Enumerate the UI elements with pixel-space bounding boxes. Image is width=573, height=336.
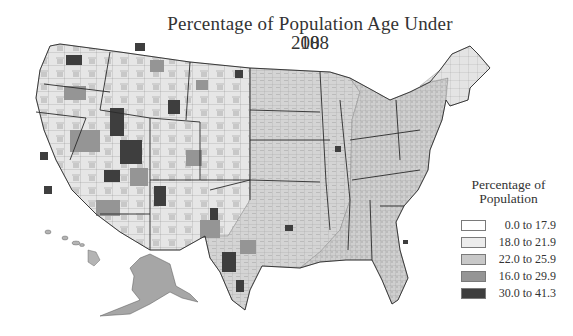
legend-item: 22.0 to 25.9 — [455, 251, 573, 268]
legend: Percentage of Population 0.0 to 17.9 18.… — [455, 178, 573, 302]
legend-title: Percentage of Population — [461, 178, 556, 206]
legend-label: 16.0 to 29.9 — [492, 269, 556, 284]
legend-swatch — [461, 254, 486, 265]
legend-item: 16.0 to 29.9 — [455, 268, 573, 285]
legend-label: 22.0 to 25.9 — [492, 252, 556, 267]
legend-item: 18.0 to 21.9 — [455, 234, 573, 251]
legend-item: 30.0 to 41.3 — [455, 285, 573, 302]
legend-item: 0.0 to 17.9 — [455, 217, 573, 234]
legend-swatch — [461, 220, 486, 231]
legend-label: 18.0 to 21.9 — [492, 235, 556, 250]
legend-swatch — [461, 288, 486, 299]
map-subtitle-year: 2008 — [160, 33, 460, 52]
legend-title-line1: Percentage of — [461, 178, 556, 192]
legend-swatch — [461, 237, 486, 248]
legend-label: 0.0 to 17.9 — [492, 218, 556, 233]
legend-title-line2: Population — [461, 192, 556, 206]
legend-label: 30.0 to 41.3 — [492, 286, 556, 301]
legend-list: 0.0 to 17.9 18.0 to 21.9 22.0 to 25.9 16… — [455, 217, 573, 302]
hawaii-inset — [45, 230, 100, 266]
continental-us — [36, 43, 490, 310]
legend-swatch — [461, 271, 486, 282]
alaska-inset — [100, 254, 198, 316]
